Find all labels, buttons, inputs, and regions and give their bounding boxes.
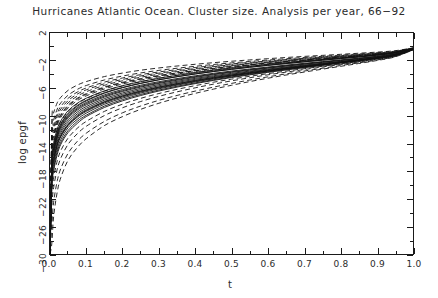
y-tick-label: −18 [38,169,48,195]
y-tick [410,74,414,75]
y-tick [410,185,414,186]
y-tick [407,88,413,89]
y-tick [410,46,414,47]
y-tick [50,255,56,256]
y-tick [407,227,413,228]
y-tick [407,116,413,117]
x-tick-label: 1.0 [394,259,434,269]
y-tick-label: 2 [38,30,48,56]
x-tick [159,248,160,254]
y-tick-label: −2 [38,58,48,84]
x-tick [268,33,269,39]
y-tick [407,171,413,172]
y-tick [410,130,414,131]
y-tick [50,199,56,200]
y-tick [407,144,413,145]
x-tick [268,248,269,254]
y-tick-label: −22 [38,197,48,223]
y-tick [50,185,54,186]
y-tick [410,241,414,242]
x-tick-label: 0.2 [102,259,142,269]
y-tick [50,74,54,75]
y-tick [50,241,54,242]
x-tick-label: 0.3 [139,259,179,269]
x-tick [359,33,360,37]
y-tick [50,227,56,228]
x-tick [195,33,196,39]
y-tick [50,130,54,131]
x-tick [177,33,178,37]
x-tick-label: 0.7 [285,259,325,269]
x-tick [140,251,141,255]
series-line [50,50,413,254]
y-tick [50,144,56,145]
x-tick [232,248,233,254]
y-tick [410,157,414,158]
y-tick-label: −14 [38,142,48,168]
x-tick [378,248,379,254]
x-tick-label: 0.8 [321,259,361,269]
y-tick [50,60,56,61]
x-tick-label: 0.1 [66,259,106,269]
x-tick [104,251,105,255]
x-tick [250,251,251,255]
y-tick [407,199,413,200]
x-tick [250,33,251,37]
series-line [50,50,413,254]
y-tick-label: −30 [38,253,48,279]
x-tick [177,251,178,255]
x-axis-title: t [200,279,260,290]
x-tick-label: 0.0 [29,259,69,269]
x-tick [213,33,214,37]
x-tick [122,33,123,39]
x-tick [396,33,397,37]
x-tick [140,33,141,37]
y-tick [407,255,413,256]
y-tick [50,213,54,214]
x-tick [323,251,324,255]
x-tick-label: 0.5 [212,259,252,269]
x-tick [341,33,342,39]
x-tick [341,248,342,254]
y-tick [50,46,54,47]
x-tick [232,33,233,39]
x-tick [86,33,87,39]
y-tick-label: −26 [38,225,48,251]
x-tick [414,33,415,39]
x-tick-label: 0.4 [175,259,215,269]
y-tick [50,102,54,103]
y-tick-label: −6 [38,86,48,112]
x-tick [305,248,306,254]
x-tick [159,33,160,39]
curve-layer [50,33,413,254]
x-tick [67,33,68,37]
x-tick [122,248,123,254]
x-tick [49,33,50,39]
x-tick [49,248,50,254]
x-tick [378,33,379,39]
x-tick [286,251,287,255]
x-tick [305,33,306,39]
y-tick [410,102,414,103]
x-tick [396,251,397,255]
y-tick [50,32,56,33]
x-tick [104,33,105,37]
y-tick [50,88,56,89]
y-tick [410,213,414,214]
chart-title: Hurricanes Atlantic Ocean. Cluster size.… [0,5,438,17]
y-tick [50,157,54,158]
y-axis-title: log epgf [17,113,28,173]
y-tick [50,116,56,117]
x-tick-label: 0.9 [358,259,398,269]
x-tick [86,248,87,254]
x-tick [286,33,287,37]
x-tick-label: 0.6 [248,259,288,269]
x-tick [359,251,360,255]
x-tick [414,248,415,254]
y-tick [407,60,413,61]
x-tick [67,251,68,255]
y-tick [407,32,413,33]
y-tick [50,171,56,172]
x-tick [213,251,214,255]
chart-figure: Hurricanes Atlantic Ocean. Cluster size.… [0,0,438,298]
